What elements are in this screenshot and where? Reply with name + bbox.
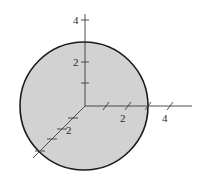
z-label-4: 4: [73, 14, 79, 26]
diagram-canvas: 4 2 2 4 2: [0, 0, 204, 183]
y-label-4: 4: [162, 112, 168, 124]
y-label-2: 2: [120, 112, 126, 124]
z-label-2: 2: [73, 56, 79, 68]
sphere-axes-figure: 4 2 2 4 2: [0, 0, 204, 183]
x-label-2: 2: [66, 124, 72, 136]
